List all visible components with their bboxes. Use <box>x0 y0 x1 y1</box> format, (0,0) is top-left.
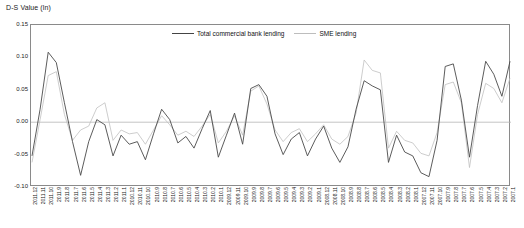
y-axis-tick: 0.05 <box>0 86 28 92</box>
x-axis-tick: 2011.1 <box>122 187 127 202</box>
x-axis-tick: 2011.7 <box>74 187 79 202</box>
x-axis-tick: 2007.2 <box>503 187 508 202</box>
x-axis-tick: 2011.4 <box>98 187 103 202</box>
y-axis-tick: 0.10 <box>0 53 28 59</box>
x-axis-tick: 2009.10 <box>244 187 249 205</box>
x-axis-tick: 2010.6 <box>179 187 184 202</box>
series-line-total-commercial-bank-lending <box>32 52 510 176</box>
x-axis-tick: 2011.6 <box>82 187 87 202</box>
x-axis-tick: 2009.2 <box>308 187 313 202</box>
y-axis-tick: -0.10 <box>0 183 28 189</box>
x-axis-tick: 2007.8 <box>454 187 459 202</box>
x-axis-tick: 2011.8 <box>65 187 70 202</box>
x-axis-tick: 2009.5 <box>284 187 289 202</box>
x-axis-tick: 2008.4 <box>389 187 394 202</box>
x-axis-tick: 2010.8 <box>163 187 168 202</box>
x-axis-tick: 2007.3 <box>495 187 500 202</box>
y-axis-tick: -0.05 <box>0 151 28 157</box>
x-axis-tick: 2008.10 <box>341 187 346 205</box>
chart-legend: Total commercial bank lending SME lendin… <box>172 30 356 37</box>
x-axis-tick: 2009.9 <box>252 187 257 202</box>
x-axis-tick: 2009.3 <box>300 187 305 202</box>
x-axis-tick: 2010.9 <box>155 187 160 202</box>
chart-svg <box>31 25 511 187</box>
legend-item-sme: SME lending <box>294 30 356 37</box>
y-axis-tick: 0.15 <box>0 21 28 27</box>
x-axis-tick: 2008.1 <box>414 187 419 202</box>
x-axis-tick: 2009.12 <box>227 187 232 205</box>
x-axis-tick: 2010.2 <box>211 187 216 202</box>
x-axis-tick: 2007.10 <box>438 187 443 205</box>
x-axis-tick: 2007.6 <box>470 187 475 202</box>
chart-container: D-S Value (ln) 0.150.100.050.00-0.05-0.1… <box>0 0 524 228</box>
x-axis-tick: 2010.12 <box>130 187 135 205</box>
x-axis-tick: 2011.12 <box>33 187 38 205</box>
x-axis-tick: 2007.4 <box>487 187 492 202</box>
x-axis-tick: 2010.4 <box>195 187 200 202</box>
legend-item-total: Total commercial bank lending <box>172 30 284 37</box>
legend-label-total: Total commercial bank lending <box>197 30 284 37</box>
x-axis-tick: 2011.11 <box>41 187 46 204</box>
x-axis-tick: 2009.4 <box>292 187 297 202</box>
x-axis-tick: 2010.1 <box>219 187 224 202</box>
x-axis: 2011.122011.112011.102011.92011.82011.72… <box>30 187 510 227</box>
y-axis-tick: 0.00 <box>0 118 28 124</box>
x-axis-tick: 2008.6 <box>373 187 378 202</box>
x-axis-tick: 2009.6 <box>276 187 281 202</box>
x-axis-tick: 2007.1 <box>511 187 516 202</box>
legend-label-sme: SME lending <box>319 30 356 37</box>
x-axis-tick: 2008.11 <box>333 187 338 205</box>
plot-area <box>30 24 510 186</box>
x-axis-tick: 2011.3 <box>106 187 111 202</box>
x-axis-tick: 2010.5 <box>187 187 192 202</box>
x-axis-tick: 2010.11 <box>138 187 143 205</box>
x-axis-tick: 2008.5 <box>381 187 386 202</box>
x-axis-tick: 2007.11 <box>430 187 435 205</box>
x-axis-tick: 2010.3 <box>203 187 208 202</box>
x-axis-tick: 2008.3 <box>398 187 403 202</box>
x-axis-tick: 2011.10 <box>49 187 54 205</box>
x-axis-tick: 2009.11 <box>236 187 241 205</box>
x-axis-tick: 2007.5 <box>479 187 484 202</box>
x-axis-tick: 2011.2 <box>114 187 119 202</box>
x-axis-tick: 2008.7 <box>365 187 370 202</box>
x-axis-tick: 2007.12 <box>422 187 427 205</box>
x-axis-tick: 2008.8 <box>357 187 362 202</box>
x-axis-tick: 2011.5 <box>90 187 95 202</box>
legend-swatch-sme <box>294 33 316 34</box>
x-axis-tick: 2009.8 <box>260 187 265 202</box>
x-axis-tick: 2009.1 <box>317 187 322 202</box>
x-axis-tick: 2008.12 <box>325 187 330 205</box>
x-axis-tick: 2011.9 <box>57 187 62 202</box>
x-axis-tick: 2008.9 <box>349 187 354 202</box>
legend-swatch-total <box>172 33 194 34</box>
x-axis-tick: 2007.7 <box>462 187 467 202</box>
x-axis-tick: 2009.7 <box>268 187 273 202</box>
x-axis-tick: 2010.10 <box>146 187 151 205</box>
chart-title: D-S Value (ln) <box>6 4 51 11</box>
x-axis-tick: 2007.9 <box>446 187 451 202</box>
x-axis-tick: 2008.2 <box>406 187 411 202</box>
x-axis-tick: 2010.7 <box>171 187 176 202</box>
